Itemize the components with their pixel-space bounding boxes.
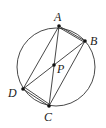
point-P (52, 63, 56, 67)
segment-AD (23, 26, 59, 89)
point-C (47, 104, 51, 108)
segment-DC (23, 89, 49, 106)
label-A: A (53, 10, 62, 24)
label-C: C (44, 110, 53, 124)
point-A (57, 24, 61, 28)
segment-AB (59, 26, 85, 41)
label-D: D (7, 86, 17, 100)
segment-DC-double (24, 87, 49, 104)
label-B: B (90, 34, 98, 48)
point-B (83, 39, 87, 43)
point-D (21, 87, 25, 91)
segment-AB-double (60, 28, 84, 42)
segment-BC (49, 41, 85, 106)
geometry-diagram: A B C D P (0, 0, 106, 128)
label-P: P (56, 62, 65, 76)
